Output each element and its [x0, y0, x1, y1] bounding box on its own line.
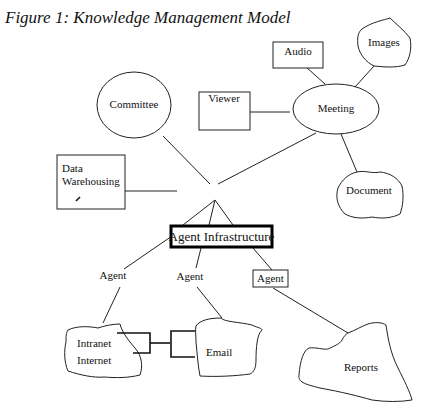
agent-middle-label: Agent — [177, 270, 204, 282]
audio-label: Audio — [284, 45, 312, 57]
agent-email-line — [197, 287, 222, 318]
agent-right-label: Agent — [257, 272, 284, 284]
meeting-node: Meeting — [293, 84, 379, 134]
knowledge-management-diagram: Audio Images Committee Viewer Meeting Da… — [0, 0, 424, 411]
intranet-internet-node: Intranet Internet — [65, 324, 142, 378]
internet-label: Internet — [77, 354, 111, 366]
infra-agent-mid-line — [196, 248, 201, 268]
infra-agent-right-line — [253, 248, 272, 270]
document-node: Document — [337, 171, 403, 218]
images-meeting-line — [355, 66, 374, 87]
agent-infrastructure-node: Agent Infrastructure — [169, 226, 275, 247]
hub-infra-line-right — [215, 200, 233, 225]
email-label: Email — [206, 346, 232, 358]
agent-right-node: Agent — [253, 270, 288, 287]
agent-left-label: Agent — [100, 269, 127, 281]
audio-node: Audio — [273, 42, 323, 68]
audio-meeting-line — [306, 67, 325, 84]
agent-intranet-line — [103, 287, 120, 323]
viewer-node: Viewer — [199, 92, 250, 130]
data-warehousing-label-line1: Data — [62, 162, 83, 174]
reports-node: Reports — [299, 323, 412, 402]
committee-hub-line — [163, 136, 210, 184]
committee-label: Committee — [110, 98, 159, 110]
viewer-label: Viewer — [208, 92, 240, 104]
images-node: Images — [358, 18, 411, 67]
agent-reports-line — [273, 288, 348, 333]
email-node: Email — [196, 318, 262, 376]
committee-node: Committee — [97, 72, 171, 138]
data-warehousing-node: Data Warehousing — [57, 155, 125, 209]
intranet-label: Intranet — [77, 337, 111, 349]
data-warehousing-label-line2: Warehousing — [62, 175, 120, 187]
meeting-hub-line — [218, 133, 316, 184]
document-label: Document — [346, 184, 392, 196]
meeting-label: Meeting — [318, 102, 355, 114]
agent-infrastructure-label: Agent Infrastructure — [169, 229, 275, 244]
infra-agent-left-line — [124, 236, 172, 269]
reports-label: Reports — [344, 361, 378, 373]
images-label: Images — [368, 36, 400, 48]
meeting-document-line — [341, 134, 357, 172]
